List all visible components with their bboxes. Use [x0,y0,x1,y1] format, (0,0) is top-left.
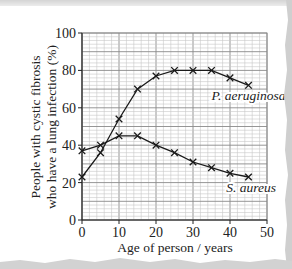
series-line-0 [82,70,249,177]
y-tick-label: 80 [62,63,76,78]
torn-paper-bottom-edge [0,255,292,269]
x-tick-label: 10 [112,225,126,240]
x-tick-label: 0 [79,225,86,240]
x-tick-label: 20 [149,225,163,240]
series-label-1: S. aureus [226,180,276,195]
axis-ticks: 02040608010001020304050 [55,26,274,240]
y-axis-label-line1: People with cystic fibrosis [28,45,44,209]
y-tick-label: 60 [62,101,76,116]
y-tick-label: 40 [62,138,76,153]
y-tick-label: 100 [55,26,76,41]
torn-paper-right-edge [282,0,292,269]
y-axis-label: People with cystic fibrosis who have a l… [28,45,60,209]
y-axis-label-line2: who have a lung infection (%) [44,45,60,209]
x-tick-label: 50 [260,225,274,240]
x-tick-label: 40 [223,225,237,240]
series-label-0: P. aeruginosa [211,88,286,103]
x-tick-label: 30 [186,225,200,240]
data-series [79,67,252,180]
y-tick-label: 20 [62,176,76,191]
x-axis-label: Age of person / years [117,240,232,256]
y-tick-label: 0 [69,213,76,228]
